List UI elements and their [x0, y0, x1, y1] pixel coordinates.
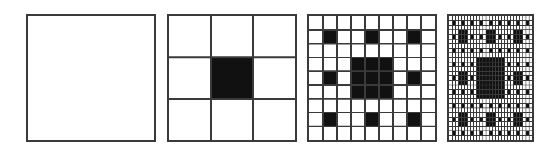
fractal-panel-iteration-3 — [307, 14, 437, 142]
fractal-panel-iteration-2 — [167, 14, 297, 142]
fractal-grid-canvas — [307, 14, 437, 142]
fractal-iteration-figure — [0, 0, 536, 151]
fractal-grid-canvas — [447, 14, 534, 142]
fractal-grid-canvas — [26, 14, 156, 142]
fractal-grid-canvas — [167, 14, 297, 142]
fractal-panel-iteration-4 — [447, 14, 534, 142]
fractal-panel-iteration-1 — [26, 14, 156, 142]
